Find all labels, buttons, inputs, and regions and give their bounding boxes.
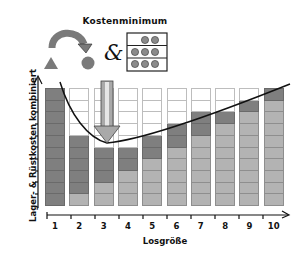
x-axis bbox=[47, 211, 289, 219]
x-tick-10: 10 bbox=[267, 221, 281, 231]
x-tick-1: 1 bbox=[48, 221, 62, 231]
x-tick-5: 5 bbox=[145, 221, 159, 231]
y-axis bbox=[34, 76, 42, 208]
x-tick-2: 2 bbox=[72, 221, 86, 231]
x-tick-9: 9 bbox=[242, 221, 256, 231]
x-tick-7: 7 bbox=[194, 221, 208, 231]
x-tick-3: 3 bbox=[97, 221, 111, 231]
cost-curve bbox=[60, 82, 290, 143]
x-axis-label: Losgröße bbox=[140, 236, 190, 246]
minimum-arrow-icon bbox=[94, 81, 120, 143]
chart-overlay bbox=[0, 0, 308, 257]
x-tick-4: 4 bbox=[121, 221, 135, 231]
x-tick-8: 8 bbox=[218, 221, 232, 231]
x-tick-6: 6 bbox=[170, 221, 184, 231]
